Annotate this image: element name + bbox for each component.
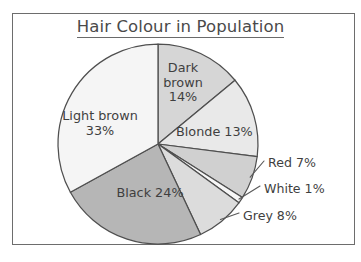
chart-page: Hair Colour in Population Dark brown 14%… (0, 0, 361, 262)
pie-slices-group (58, 44, 258, 244)
pie-chart-svg (0, 0, 361, 262)
